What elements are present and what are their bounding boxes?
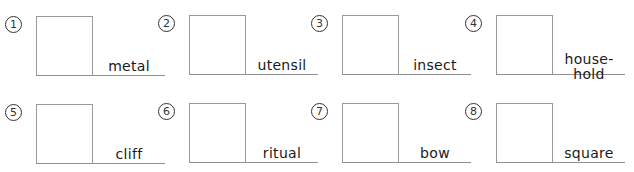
item-6: 6 ritual	[158, 103, 318, 172]
item-word: cliff	[93, 147, 165, 162]
item-word: square	[553, 146, 625, 161]
answer-box[interactable]	[36, 16, 93, 76]
item-number-circle: 7	[311, 103, 328, 120]
item-5: 5 cliff	[5, 104, 165, 172]
underline	[342, 162, 471, 163]
item-number-circle: 2	[158, 15, 175, 32]
underline	[496, 162, 625, 163]
underline	[36, 163, 165, 164]
answer-box[interactable]	[342, 15, 399, 75]
underline	[342, 74, 471, 75]
item-8: 8 square	[465, 103, 625, 172]
item-3: 3 insect	[311, 15, 471, 85]
item-number-circle: 3	[311, 15, 328, 32]
answer-box[interactable]	[189, 15, 246, 75]
item-number-circle: 8	[465, 103, 482, 120]
item-7: 7 bow	[311, 103, 471, 172]
item-number-circle: 5	[5, 104, 22, 121]
item-number-circle: 6	[158, 103, 175, 120]
answer-box[interactable]	[342, 103, 399, 163]
item-word: bow	[399, 146, 471, 161]
item-word: house- hold	[553, 52, 625, 82]
answer-box[interactable]	[36, 104, 93, 164]
item-word: ritual	[246, 146, 318, 161]
answer-box[interactable]	[189, 103, 246, 163]
item-1: 1 metal	[5, 16, 165, 86]
item-word: metal	[93, 59, 165, 74]
item-2: 2 utensil	[158, 15, 318, 85]
answer-box[interactable]	[496, 15, 553, 75]
underline	[36, 75, 165, 76]
item-word: utensil	[246, 58, 318, 73]
underline	[189, 74, 318, 75]
item-word: insect	[399, 58, 471, 73]
item-4: 4 house- hold	[465, 15, 625, 85]
item-number-circle: 4	[465, 15, 482, 32]
item-number-circle: 1	[5, 16, 22, 33]
underline	[189, 162, 318, 163]
answer-box[interactable]	[496, 103, 553, 163]
